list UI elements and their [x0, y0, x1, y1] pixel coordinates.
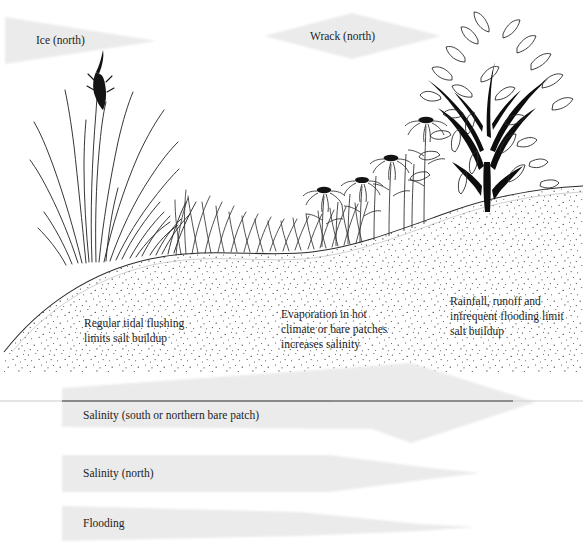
ice-wedge-label: Ice (north) [36, 33, 85, 47]
note-rainfall-line3: salt buildup [450, 324, 504, 338]
salinity-north-label: Salinity (north) [83, 466, 154, 480]
flooding-label: Flooding [83, 516, 125, 530]
tall-grass-left [30, 74, 196, 265]
salinity-south-label: Salinity (south or northern bare patch) [83, 408, 259, 422]
note-tidal-flushing-line1: Regular tidal flushing [84, 316, 184, 330]
tree-trunk [428, 62, 549, 212]
note-evaporation-line3: increases salinity [281, 337, 360, 351]
note-rainfall-line2: infrequent flooding limit [450, 309, 564, 323]
note-evaporation-line2: climate or bare patches [281, 322, 387, 336]
tree [410, 12, 573, 212]
wrack-wedge-label: Wrack (north) [310, 29, 375, 43]
note-rainfall-line1: Rainfall, runoff and [450, 294, 541, 308]
flower-icon [405, 117, 447, 224]
flower-icon [303, 187, 345, 247]
grass-seedhead-icon [87, 50, 114, 110]
salinity-south-band [0, 363, 583, 443]
note-evaporation-line1: Evaporation in hot [281, 307, 367, 321]
note-tidal-flushing-line2: limits salt buildup [84, 331, 167, 345]
diagram-canvas: Ice (north) Wrack (north) Regular tidal … [0, 0, 585, 557]
